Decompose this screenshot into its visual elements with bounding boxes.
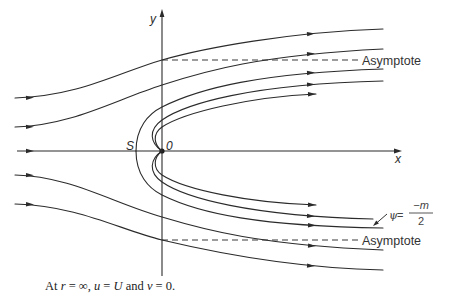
- flow-arrow-icon: [26, 95, 34, 100]
- half-body-flow-diagram: y x S 0 Asymptote Asymptote ψ = −m 2: [0, 0, 451, 296]
- flow-arrow-icon: [26, 202, 34, 207]
- psi-numerator: −m: [413, 199, 429, 211]
- x-axis-label: x: [394, 152, 402, 166]
- caption-text: and: [123, 279, 147, 293]
- figure-caption: At r = ∞, u = U and v = 0.: [45, 279, 175, 294]
- flow-arrow-icon: [307, 214, 315, 219]
- upper-asymptote-label: Asymptote: [362, 54, 421, 68]
- flow-arrow-icon: [308, 92, 316, 97]
- caption-text: = 0.: [152, 279, 175, 293]
- caption-text: = ∞,: [66, 279, 94, 293]
- flow-arrow-icon: [307, 51, 315, 56]
- psi-equals: =: [397, 209, 403, 221]
- dividing-streamline-lower: [136, 151, 383, 228]
- y-axis-arrow-icon: [160, 9, 165, 17]
- flow-arrow-icon: [307, 31, 315, 36]
- flow-arrow-icon: [307, 70, 315, 75]
- flow-arrow-icon: [308, 223, 316, 228]
- streamline-lower-2: [15, 204, 383, 270]
- flow-arrow-icon: [308, 243, 316, 248]
- stagnation-point-label: S: [126, 139, 134, 153]
- origin-label: 0: [166, 139, 173, 153]
- streamline-lower-1: [15, 175, 383, 250]
- caption-text: =: [100, 279, 113, 293]
- caption-text: At: [45, 279, 61, 293]
- flow-arrow-icon: [307, 82, 315, 87]
- lower-asymptote-label: Asymptote: [362, 234, 421, 248]
- caption-var-U: U: [114, 279, 123, 293]
- source-streamline-upper-2: [155, 94, 316, 151]
- flow-arrow-icon: [26, 149, 34, 153]
- flow-arrow-icon: [307, 263, 315, 268]
- y-axis-label: y: [149, 12, 157, 26]
- flow-arrow-icon: [26, 125, 34, 130]
- streamline-upper-2: [15, 49, 383, 127]
- psi-denominator: 2: [418, 215, 424, 227]
- psi-pointer-line: [376, 214, 387, 224]
- streamline-psi-label: ψ = −m 2: [372, 199, 433, 228]
- flow-arrow-icon: [308, 203, 316, 208]
- source-streamline-lower-2: [155, 151, 316, 205]
- streamline-upper-1: [15, 29, 383, 98]
